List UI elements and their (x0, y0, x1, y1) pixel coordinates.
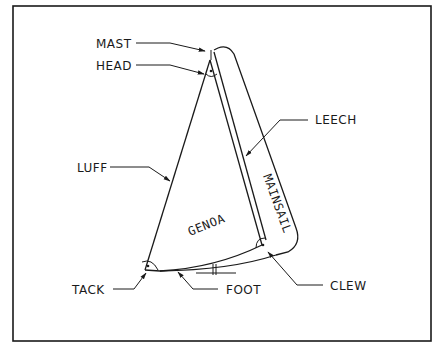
sail-diagram: MAST HEAD LEECH LUFF TACK FOOT CLEW GENO… (0, 0, 440, 357)
label-foot: FOOT (226, 283, 261, 297)
leech-leader (246, 120, 308, 156)
head-leader (136, 65, 204, 74)
label-luff: LUFF (77, 161, 108, 175)
label-head: HEAD (96, 59, 132, 73)
head-marker (206, 70, 217, 77)
foot-leader (178, 272, 218, 289)
label-genoa: GENOA (186, 211, 227, 239)
label-tack: TACK (71, 283, 105, 297)
clew-leader (268, 252, 323, 285)
label-leech: LEECH (315, 113, 357, 127)
label-mast: MAST (96, 37, 132, 51)
luff-leader (110, 167, 170, 181)
label-mainsail: MAINSAIL (260, 172, 294, 235)
genoa-shape (145, 60, 276, 271)
label-clew: CLEW (330, 279, 367, 293)
tack-leader (113, 273, 146, 289)
mast-leader (136, 43, 205, 51)
tack-marker (142, 261, 158, 270)
